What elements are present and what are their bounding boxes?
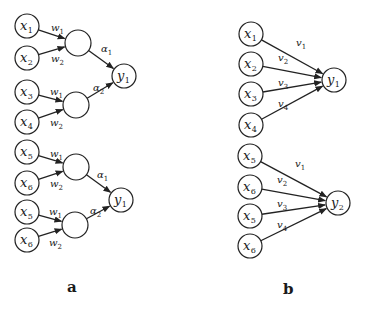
weight-label-w: w2 [50, 178, 63, 192]
weight-label-v: v1 [295, 158, 305, 172]
weight-label-v: v4 [277, 219, 288, 233]
input-node-x2: x2 [239, 52, 263, 76]
weight-label-w: w1 [51, 22, 64, 36]
weight-label-alpha: α1 [101, 43, 112, 57]
weight-label-v: v3 [278, 77, 288, 91]
weight-label-w: w1 [50, 86, 63, 100]
edge-input-to-output [261, 40, 322, 74]
panel-label-a: a [67, 278, 77, 296]
network-diagram: x1x2x3x4y1x5x6x5x6y1x1x2x3x4y1x5x6x5x6y2… [0, 0, 366, 312]
input-node-x3: x3 [239, 82, 263, 106]
weight-label-v: v3 [277, 198, 287, 212]
output-node-y1: y1 [322, 68, 346, 92]
node-circle [65, 30, 91, 56]
input-node-x6: x6 [15, 228, 39, 252]
weight-label-w: w1 [49, 206, 62, 220]
input-node-x5: x5 [15, 140, 39, 164]
edge-input-to-output [261, 162, 327, 197]
input-node-x6: x6 [238, 175, 262, 199]
node-circle [63, 92, 89, 118]
weight-label-w: w2 [50, 117, 63, 131]
output-node-y2: y2 [326, 191, 350, 215]
input-node-x3: x3 [15, 80, 39, 104]
edge-input-to-output [262, 205, 325, 214]
input-node-x5: x5 [238, 144, 262, 168]
hidden-node [62, 212, 88, 238]
edge-input-to-hidden [38, 229, 61, 236]
input-node-x2: x2 [15, 46, 39, 70]
node-circle [62, 212, 88, 238]
hidden-node [63, 154, 89, 180]
node-circle [63, 154, 89, 180]
weight-label-v: v2 [277, 174, 287, 188]
input-node-x1: x1 [239, 22, 263, 46]
hidden-node [65, 30, 91, 56]
weight-label-alpha: α1 [97, 169, 108, 183]
input-node-x4: x4 [239, 113, 263, 137]
output-node-y1: y1 [109, 188, 133, 212]
input-node-x4: x4 [15, 110, 39, 134]
edge-input-to-output [263, 82, 321, 92]
panel-label-b: b [283, 280, 294, 298]
weight-label-w: w2 [51, 53, 64, 67]
weight-label-v: v1 [296, 37, 306, 51]
output-node-y1: y1 [112, 64, 136, 88]
input-node-x6: x6 [238, 234, 262, 258]
input-node-x6: x6 [15, 171, 39, 195]
input-node-x5: x5 [15, 200, 39, 224]
input-node-x5: x5 [238, 204, 262, 228]
input-node-x1: x1 [15, 14, 39, 38]
hidden-node [63, 92, 89, 118]
weight-label-w: w2 [49, 237, 62, 251]
